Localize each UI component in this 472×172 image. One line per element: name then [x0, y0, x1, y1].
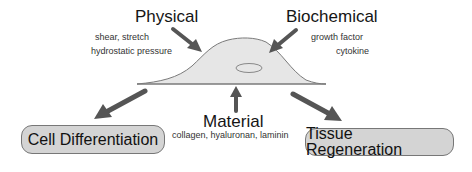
tissue-regeneration-label: Tissue Regeneration — [306, 126, 453, 158]
biochemical-detail-2: cytokine — [336, 47, 369, 56]
physical-title: Physical — [135, 8, 198, 25]
biochemical-title: Biochemical — [286, 8, 378, 25]
biochemical-arrow-icon — [269, 30, 296, 53]
cell-differentiation-label: Cell Differentiation — [28, 132, 158, 148]
biochemical-detail-1: growth factor — [311, 33, 363, 42]
regeneration-arrow-icon — [293, 94, 342, 121]
cell-body — [137, 38, 326, 84]
physical-detail-2: hydrostatic pressure — [91, 47, 172, 56]
physical-detail-1: shear, stretch — [95, 33, 149, 42]
physical-arrow-icon — [173, 29, 202, 52]
material-title: Material — [203, 113, 263, 130]
tissue-regeneration-box: Tissue Regeneration — [305, 128, 454, 156]
material-arrow-icon — [230, 86, 242, 111]
material-detail-1: collagen, hyaluronan, laminin — [172, 131, 289, 140]
cell-differentiation-box: Cell Differentiation — [21, 125, 165, 154]
nucleus — [236, 64, 262, 73]
differentiation-arrow-icon — [94, 91, 145, 119]
